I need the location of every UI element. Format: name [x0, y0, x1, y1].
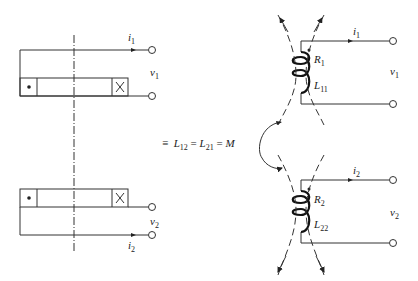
label-v2-left: v2 [150, 216, 159, 230]
equivalence-equation: ≡ L12 = L21 = M [162, 138, 235, 152]
left-coil-1 [20, 47, 156, 100]
label-L11: L11 [314, 80, 328, 94]
right-coil-2 [293, 177, 397, 247]
dot-marker-2 [27, 196, 31, 200]
left-coil-2 [20, 189, 156, 239]
label-i2-right: i2 [353, 165, 360, 179]
label-i1-right: i1 [353, 26, 360, 40]
current-arrow-i2-left [131, 233, 136, 237]
label-v1-left: v1 [150, 67, 159, 81]
label-v1-right: v1 [390, 66, 399, 80]
dot-marker-1 [27, 85, 31, 89]
label-L22: L22 [314, 219, 328, 233]
label-R2: R2 [314, 194, 325, 208]
current-arrow-i1-left [131, 48, 136, 52]
mutual-inductance-diagram: i1 v1 v2 i2 ≡ L12 = L21 = M i1 R1 L11 v1… [0, 0, 418, 281]
right-coil-1 [293, 38, 397, 108]
label-i1-left: i1 [128, 32, 135, 46]
label-v2-right: v2 [390, 207, 399, 221]
mutual-coupling-arrow [259, 122, 282, 169]
label-i2-left: i2 [128, 240, 135, 254]
label-R1: R1 [314, 54, 325, 68]
